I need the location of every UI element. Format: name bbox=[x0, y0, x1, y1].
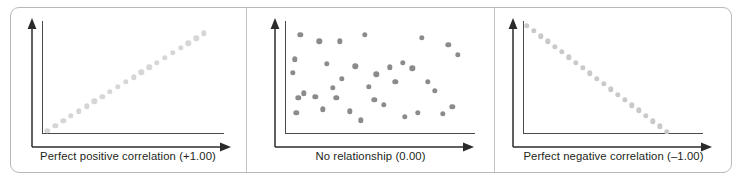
caption-none: No relationship (0.00) bbox=[247, 150, 494, 162]
plot-area-none bbox=[285, 21, 475, 134]
caption-positive: Perfect positive correlation (+1.00) bbox=[10, 150, 246, 162]
correlation-figure: Perfect positive correlation (+1.00) No … bbox=[0, 0, 742, 185]
plot-area-negative bbox=[523, 21, 703, 134]
panel-no-relationship: No relationship (0.00) bbox=[247, 7, 494, 173]
panel-perfect-negative: Perfect negative correlation (–1.00) bbox=[495, 7, 732, 173]
caption-negative: Perfect negative correlation (–1.00) bbox=[495, 150, 732, 162]
panel-perfect-positive: Perfect positive correlation (+1.00) bbox=[10, 7, 246, 173]
